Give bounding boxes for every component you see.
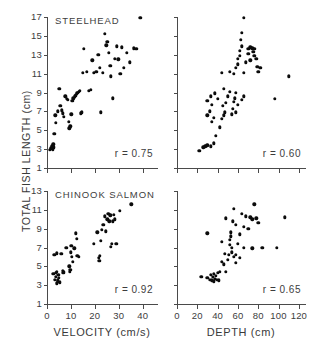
data-point [135, 47, 138, 50]
data-point [222, 263, 225, 266]
data-point [107, 51, 110, 54]
data-point [139, 16, 142, 19]
data-point [71, 99, 74, 102]
x-tick-label: 30 [107, 310, 131, 321]
data-point [250, 247, 253, 250]
data-point [240, 98, 243, 101]
data-point [238, 54, 241, 57]
x-axis-label: DEPTH (cm) [157, 326, 318, 338]
y-tick-label: 15 [21, 30, 42, 41]
data-point [224, 217, 227, 220]
data-point [242, 246, 245, 249]
y-tick-label: 9 [21, 87, 42, 98]
data-point [109, 245, 112, 248]
data-point [222, 87, 225, 90]
data-point [230, 246, 233, 249]
data-point [224, 101, 227, 104]
y-tick [174, 191, 177, 192]
data-point [97, 259, 100, 262]
data-point [206, 99, 209, 102]
y-tick-label: 7 [21, 242, 42, 253]
data-point [223, 111, 226, 114]
data-point [96, 53, 99, 56]
data-point [255, 217, 258, 220]
x-tick [238, 305, 239, 309]
data-point [91, 59, 94, 62]
data-point [217, 279, 220, 282]
y-axis-line [177, 17, 178, 169]
data-point [122, 66, 125, 69]
data-point [53, 113, 56, 116]
x-tick [95, 305, 96, 309]
x-tick-minor [299, 169, 300, 172]
y-tick-label: 13 [21, 185, 42, 196]
data-point [74, 232, 77, 235]
y-tick-label: 1 [21, 298, 42, 309]
data-point [228, 238, 231, 241]
x-tick [143, 305, 144, 309]
y-axis-line [47, 191, 48, 305]
data-point [69, 268, 72, 271]
data-point [55, 251, 58, 254]
x-tick [258, 305, 259, 309]
data-point [234, 111, 237, 114]
panel-steelhead-velocity: 1357911131517STEELHEADr = 0.75 [47, 17, 157, 168]
data-point [117, 58, 120, 61]
x-tick [177, 305, 178, 309]
y-tick-label: 3 [21, 143, 42, 154]
data-point [105, 44, 108, 47]
data-point [242, 225, 245, 228]
data-point [230, 251, 233, 254]
data-point [66, 98, 69, 101]
data-point [244, 61, 247, 64]
y-tick [174, 229, 177, 230]
x-tick [279, 305, 280, 309]
y-tick [44, 17, 47, 18]
data-point [102, 223, 105, 226]
data-point [228, 70, 231, 73]
y-tick [44, 229, 47, 230]
data-point [64, 246, 67, 249]
x-tick [299, 305, 300, 309]
data-point [240, 45, 243, 48]
data-point [99, 239, 102, 242]
y-tick [174, 248, 177, 249]
data-point [214, 134, 217, 137]
data-point [89, 88, 92, 91]
y-tick [44, 93, 47, 94]
data-point [213, 92, 216, 95]
x-tick-minor [143, 169, 144, 172]
data-point [210, 103, 213, 106]
y-tick [44, 266, 47, 267]
data-point [232, 207, 235, 210]
x-tick-label: 10 [59, 310, 83, 321]
data-point [239, 38, 242, 41]
x-tick-minor [95, 169, 96, 172]
x-tick [47, 305, 48, 309]
data-point [98, 66, 101, 69]
y-tick-label: 5 [21, 124, 42, 135]
data-point [240, 212, 243, 215]
data-point [224, 270, 227, 273]
data-point [218, 270, 221, 273]
data-point [206, 232, 209, 235]
x-tick-minor [197, 169, 198, 172]
data-point [104, 230, 107, 233]
data-point [234, 261, 237, 264]
data-point [259, 66, 262, 69]
y-tick [174, 210, 177, 211]
x-tick-minor [119, 169, 120, 172]
data-point [238, 233, 241, 236]
data-point [110, 242, 113, 245]
correlation-annotation: r = 0.60 [245, 148, 301, 159]
y-tick [44, 149, 47, 150]
y-tick [44, 285, 47, 286]
correlation-annotation: r = 0.75 [97, 148, 153, 159]
x-tick-label: 0 [35, 310, 59, 321]
data-point [101, 71, 104, 74]
data-point [69, 251, 72, 254]
y-tick [44, 111, 47, 112]
y-tick [174, 266, 177, 267]
data-point [208, 110, 211, 113]
x-tick-minor [71, 169, 72, 172]
